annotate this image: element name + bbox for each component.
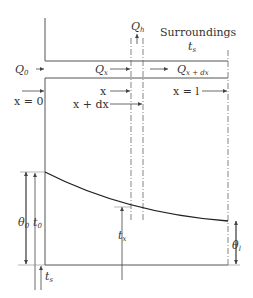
label-x: x	[100, 85, 107, 98]
label-x-eq-0: x = 0	[14, 95, 43, 108]
label-theta0: θ0	[18, 216, 30, 230]
temperature-curve	[45, 172, 228, 221]
label-Q0: Q0	[15, 63, 29, 77]
label-ts-top: ts	[188, 40, 196, 54]
label-Qxdx: Qx + dx	[177, 63, 209, 77]
label-tx: tx	[118, 229, 126, 243]
label-x-eq-l: x = l	[173, 85, 199, 98]
label-theta-l: θl	[232, 239, 241, 253]
label-surroundings: Surroundings	[160, 26, 237, 39]
fin-heat-transfer-diagram: Surroundings ts Qh Q0 Qx Qx + dx x = 0 x…	[0, 0, 253, 298]
label-Qx: Qx	[95, 63, 108, 77]
labels: Surroundings ts Qh Q0 Qx Qx + dx x = 0 x…	[14, 20, 241, 284]
label-x-plus-dx: x + dx	[73, 98, 109, 111]
label-Qh: Qh	[131, 20, 145, 34]
label-t0: t0	[33, 216, 42, 230]
rod-outline	[45, 18, 228, 265]
label-ts-bottom: ts	[45, 270, 53, 284]
